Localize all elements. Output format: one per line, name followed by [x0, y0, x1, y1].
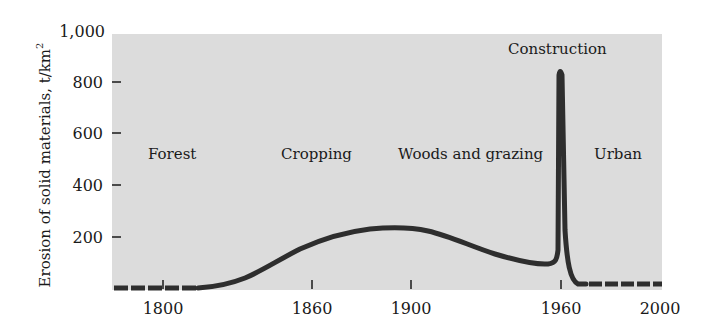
svg-text:Erosion of solid materials, t/: Erosion of solid materials, t/km2 — [34, 43, 54, 288]
label-urban: Urban — [594, 145, 642, 163]
label-woods-grazing: Woods and grazing — [398, 145, 544, 163]
y-tick-200: 200 — [72, 228, 103, 247]
chart: Erosion of solid materials, t/km2 1,000 … — [0, 0, 702, 333]
y-tick-400: 400 — [72, 176, 103, 195]
x-tick-1960: 1960 — [541, 299, 582, 318]
x-tick-1860: 1860 — [292, 299, 333, 318]
y-axis: 1,000 800 600 400 200 — [59, 22, 121, 247]
label-forest: Forest — [148, 145, 196, 163]
x-tick-1800: 1800 — [143, 299, 184, 318]
label-cropping: Cropping — [281, 145, 352, 163]
y-tick-1000: 1,000 — [59, 22, 105, 41]
x-tick-1900: 1900 — [391, 299, 432, 318]
y-tick-800: 800 — [72, 73, 103, 92]
y-axis-title: Erosion of solid materials, t/km2 — [34, 43, 54, 288]
y-tick-600: 600 — [72, 124, 103, 143]
label-construction: Construction — [508, 40, 607, 58]
x-tick-2000: 2000 — [640, 299, 681, 318]
